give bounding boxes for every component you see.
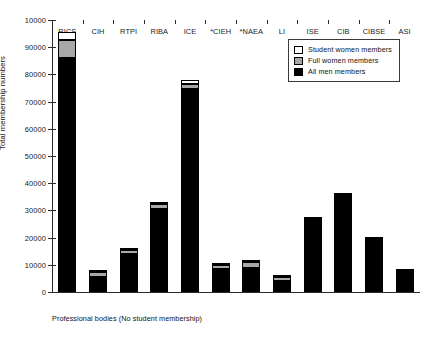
x-tick-label: *NAEA: [240, 27, 264, 36]
bar-riba[interactable]: [150, 202, 168, 292]
bar-ise[interactable]: [304, 217, 322, 292]
segment-full-women: [58, 40, 76, 58]
y-tick-label: 40000: [25, 179, 46, 188]
y-tick-label: 20000: [25, 233, 46, 242]
x-tick-label: ISE: [307, 27, 319, 36]
segment-student-women: [334, 193, 352, 195]
x-tick-label: ASI: [399, 27, 411, 36]
segment-student-women: [58, 32, 76, 40]
y-tick-mark: [48, 265, 56, 266]
y-tick-label: 0: [42, 288, 46, 297]
x-tick-mark: [175, 20, 176, 24]
x-tick-label: CIB: [337, 27, 350, 36]
segment-all-men: [273, 281, 291, 292]
segment-student-women: [89, 270, 107, 272]
x-tick-label: ICE: [184, 27, 197, 36]
legend-item[interactable]: All men members: [294, 66, 392, 77]
bar-cih[interactable]: [89, 270, 107, 292]
legend-swatch-icon: [294, 46, 303, 54]
segment-all-men: [242, 268, 260, 292]
bar-cibse[interactable]: [365, 238, 383, 292]
segment-all-men: [212, 269, 230, 292]
bar-ice[interactable]: [181, 80, 199, 292]
segment-all-men: [120, 254, 138, 292]
x-tick-mark: [297, 20, 298, 24]
x-axis-title: Professional bodies (No student membersh…: [52, 314, 202, 323]
bar-cieh[interactable]: [212, 264, 230, 292]
segment-all-men: [334, 196, 352, 292]
bar-rtpi[interactable]: [120, 248, 138, 292]
segment-full-women: [212, 265, 230, 269]
y-tick-label: 60000: [25, 124, 46, 133]
segment-student-women: [181, 80, 199, 84]
x-tick-mark: [389, 20, 390, 24]
x-tick-mark: [83, 20, 84, 24]
legend-swatch-icon: [294, 68, 303, 76]
segment-full-women: [273, 277, 291, 281]
x-tick-label: LI: [279, 27, 285, 36]
segment-all-men: [304, 220, 322, 292]
y-tick-label: 10000: [25, 260, 46, 269]
y-tick-mark: [48, 47, 56, 48]
y-tick-label: 90000: [25, 43, 46, 52]
segment-all-men: [58, 58, 76, 292]
segment-student-women: [304, 217, 322, 219]
y-tick-mark: [48, 238, 56, 239]
x-tick-label: CIH: [91, 27, 104, 36]
x-tick-label: RIBA: [151, 27, 169, 36]
segment-student-women: [120, 248, 138, 250]
segment-student-women: [273, 275, 291, 277]
segment-student-women: [212, 263, 230, 265]
bar-cib[interactable]: [334, 194, 352, 292]
y-tick-label: 80000: [25, 70, 46, 79]
y-tick-mark: [48, 292, 56, 293]
legend-item[interactable]: Full women members: [294, 55, 392, 66]
y-tick-label: 70000: [25, 97, 46, 106]
x-tick-label: RTPI: [120, 27, 137, 36]
y-tick-label: 30000: [25, 206, 46, 215]
segment-full-women: [242, 262, 260, 268]
chart-legend: Student women membersFull women membersA…: [288, 39, 400, 82]
segment-full-women: [150, 204, 168, 209]
y-tick-mark: [48, 102, 56, 103]
x-axis-line: [52, 292, 420, 293]
x-tick-mark: [205, 20, 206, 24]
x-tick-label: *CIEH: [210, 27, 231, 36]
bar-li[interactable]: [273, 276, 291, 292]
x-tick-mark: [113, 20, 114, 24]
legend-label: Full women members: [308, 56, 379, 65]
segment-student-women: [242, 260, 260, 262]
y-tick-label: 10000: [25, 16, 46, 25]
segment-student-women: [396, 269, 414, 271]
x-tick-mark: [359, 20, 360, 24]
segment-student-women: [150, 202, 168, 205]
segment-student-women: [365, 237, 383, 239]
segment-full-women: [181, 84, 199, 89]
segment-all-men: [396, 272, 414, 292]
segment-all-men: [89, 277, 107, 292]
y-tick-label: 50000: [25, 152, 46, 161]
segment-all-men: [181, 89, 199, 292]
x-tick-label: CIBSE: [363, 27, 386, 36]
bar-naea[interactable]: [242, 262, 260, 292]
y-tick-mark: [48, 129, 56, 130]
x-tick-mark: [328, 20, 329, 24]
y-tick-mark: [48, 210, 56, 211]
segment-all-men: [365, 240, 383, 292]
x-tick-mark: [236, 20, 237, 24]
legend-swatch-icon: [294, 57, 303, 65]
legend-item[interactable]: Student women members: [294, 44, 392, 55]
y-tick-mark: [48, 156, 56, 157]
legend-label: Student women members: [308, 45, 392, 54]
y-axis-title: Total membership numbers: [0, 56, 7, 150]
x-tick-mark: [144, 20, 145, 24]
bar-rics[interactable]: [58, 32, 76, 292]
segment-full-women: [120, 250, 138, 254]
bar-asi[interactable]: [396, 271, 414, 292]
y-tick-mark: [48, 183, 56, 184]
legend-label: All men members: [308, 67, 365, 76]
segment-full-women: [89, 272, 107, 277]
segment-all-men: [150, 209, 168, 292]
bar-chart: 0100002000030000400005000060000700008000…: [0, 0, 430, 339]
y-tick-mark: [48, 74, 56, 75]
